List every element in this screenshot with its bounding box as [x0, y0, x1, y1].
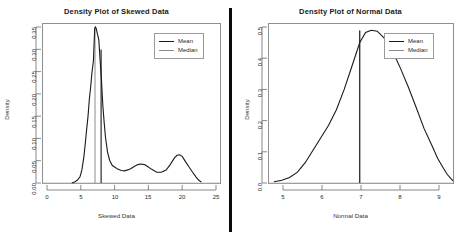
legend-item-mean: Mean: [159, 37, 198, 46]
y-tick-label: 0.30: [31, 49, 37, 73]
x-tick-label: 25: [213, 194, 220, 200]
panel-normal: Density Plot of Normal Data Normal Data …: [234, 0, 467, 240]
legend-swatch-median: [389, 50, 404, 51]
x-tick-label: 5: [281, 194, 284, 200]
y-tick-label: 0.20: [31, 94, 37, 118]
y-tick-label: 0.1: [257, 152, 263, 174]
x-tick-label: 15: [145, 194, 152, 200]
y-tick-label: 0.2: [257, 121, 263, 143]
legend-label-mean: Mean: [178, 37, 193, 46]
x-tick-label: 5: [79, 194, 82, 200]
legend-label-median: Median: [178, 46, 198, 55]
x-tick-label: 6: [320, 194, 323, 200]
panel-divider: [229, 8, 232, 232]
x-tick-label: 20: [179, 194, 186, 200]
legend-swatch-mean: [159, 41, 174, 42]
x-tick-label: 9: [437, 194, 440, 200]
x-tick-label: 10: [112, 194, 119, 200]
y-tick-label: 0.4: [257, 58, 263, 80]
figure-canvas: Density Plot of Skewed Data Skewed Data …: [0, 0, 467, 240]
y-tick-label: 0.00: [31, 183, 37, 207]
y-tick-label: 0.15: [31, 116, 37, 140]
legend-item-median: Median: [159, 46, 198, 55]
y-tick-label: 0.05: [31, 161, 37, 185]
x-tick-label: 7: [359, 194, 362, 200]
y-tick-label: 0.3: [257, 89, 263, 111]
panel-skewed: Density Plot of Skewed Data Skewed Data …: [0, 0, 233, 240]
y-tick-label: 0.10: [31, 138, 37, 162]
legend-item-median: Median: [389, 46, 428, 55]
y-tick-label: 0.25: [31, 71, 37, 95]
x-tick-label: 8: [398, 194, 401, 200]
legend-label-median: Median: [408, 46, 428, 55]
legend-swatch-mean: [389, 41, 404, 42]
y-tick-label: 0.0: [257, 183, 263, 205]
legend-item-mean: Mean: [389, 37, 428, 46]
y-tick-label: 0.5: [257, 27, 263, 49]
legend-normal: Mean Median: [384, 33, 434, 59]
x-tick-label: 0: [45, 194, 48, 200]
y-tick-label: 0.35: [31, 27, 37, 51]
legend-swatch-median: [159, 50, 174, 51]
legend-label-mean: Mean: [408, 37, 423, 46]
legend-skewed: Mean Median: [154, 33, 204, 59]
